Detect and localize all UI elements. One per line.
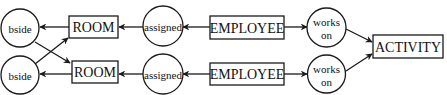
relationship-works-on-top: works on bbox=[307, 8, 346, 47]
activity-label: ACTIVITY bbox=[375, 40, 441, 55]
works-on-top-label-line1: works bbox=[313, 16, 340, 28]
relationship-works-on-bottom: works on bbox=[308, 55, 346, 93]
entity-employee-bottom: EMPLOYEE bbox=[210, 63, 285, 85]
works-on-bottom-label-line1: works bbox=[313, 63, 340, 75]
entity-employee-top: EMPLOYEE bbox=[210, 16, 285, 39]
works-on-bottom-label-line2: on bbox=[321, 76, 333, 88]
employee-top-label: EMPLOYEE bbox=[210, 21, 285, 36]
assigned-bottom-label: assigned bbox=[144, 69, 182, 81]
relationship-assigned-bottom: assigned bbox=[143, 54, 183, 94]
works-on-top-label-line2: on bbox=[321, 29, 333, 41]
relationship-assigned-top: assigned bbox=[143, 6, 183, 46]
entity-activity: ACTIVITY bbox=[373, 35, 443, 58]
edge-works-on-top-to-activity bbox=[346, 29, 372, 42]
er-diagram: bside bside ROOM ROOM assigned assigned … bbox=[0, 0, 447, 95]
relationship-bside-bottom: bside bbox=[1, 56, 39, 94]
assigned-top-label: assigned bbox=[144, 21, 182, 33]
edge-bside-bottom-to-room-top bbox=[35, 38, 68, 64]
edge-works-on-bottom-to-activity bbox=[346, 54, 372, 71]
bside-bottom-label: bside bbox=[8, 70, 31, 82]
room-top-label: ROOM bbox=[72, 20, 115, 35]
employee-bottom-label: EMPLOYEE bbox=[210, 67, 285, 82]
entity-room-top: ROOM bbox=[69, 16, 118, 38]
entity-room-bottom: ROOM bbox=[72, 61, 118, 83]
bside-top-label: bside bbox=[8, 23, 31, 35]
relationship-bside-top: bside bbox=[1, 9, 39, 47]
room-bottom-label: ROOM bbox=[74, 65, 117, 80]
